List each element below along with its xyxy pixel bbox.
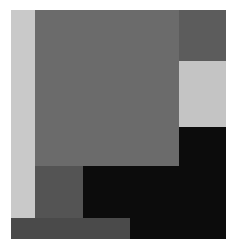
light-left-strip (11, 10, 35, 218)
large-gray-square (35, 10, 179, 166)
artwork-canvas (11, 10, 226, 239)
bottom-gray-strip (11, 218, 130, 239)
top-right-gray-block (179, 10, 226, 61)
right-light-block (179, 61, 226, 127)
bottom-left-gray-block (35, 166, 83, 218)
